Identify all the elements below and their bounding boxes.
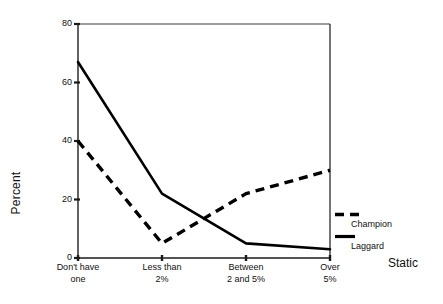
y-tick-label-group: 80 60 40 20 0 (44, 0, 72, 304)
y-tick-label-0: 0 (46, 253, 72, 262)
legend-label-laggard: Laggard (351, 241, 384, 251)
legend: Champion Laggard (335, 210, 443, 262)
x-tick-label-over-5: Over 5% (278, 262, 382, 285)
x-tick-label-group: Don't have one Less than 2% Between 2 an… (0, 262, 443, 304)
x-tick-label-line2: 5% (278, 274, 382, 286)
y-tick-label-20: 20 (46, 195, 72, 204)
series-line-champion (78, 141, 330, 243)
y-tick-label-40: 40 (46, 136, 72, 145)
line-chart: 80 60 40 20 0 Percent Don't have one Les… (0, 0, 443, 304)
dashed-line-swatch-icon (335, 212, 361, 216)
solid-line-swatch-icon (335, 234, 361, 238)
legend-item-champion[interactable]: Champion (335, 210, 443, 234)
axis-frame (78, 24, 330, 258)
y-tick-label-80: 80 (46, 19, 72, 28)
legend-label-champion: Champion (351, 219, 392, 229)
x-tick-label-line1: Over (278, 262, 382, 274)
legend-item-laggard[interactable]: Laggard (335, 232, 443, 256)
series-line-laggard (78, 62, 330, 249)
y-axis-title: Percent (9, 153, 23, 233)
y-tick-label-60: 60 (46, 78, 72, 87)
